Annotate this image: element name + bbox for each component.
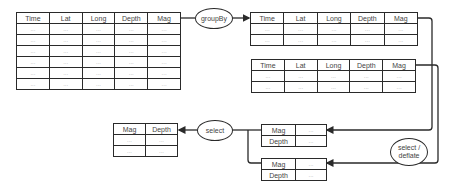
source-table: Time Lat Long Depth Mag ... ... ... ... … bbox=[16, 12, 181, 90]
row-label-mag: Mag bbox=[262, 159, 296, 170]
cell: ... bbox=[17, 68, 50, 79]
header-mag: Mag bbox=[384, 13, 417, 24]
table-header-row: Time Lat Long Depth Mag bbox=[17, 13, 181, 24]
table-row: Mag ... bbox=[262, 159, 327, 170]
select-deflate-label-line1: select / bbox=[398, 144, 420, 152]
cell: ... bbox=[49, 79, 82, 90]
groupby-diagram: Time Lat Long Depth Mag ... ... ... ... … bbox=[0, 0, 456, 192]
header-time: Time bbox=[252, 60, 285, 71]
cell: ... bbox=[49, 35, 82, 46]
cell: ... bbox=[383, 71, 416, 82]
cell: ... bbox=[17, 57, 50, 68]
table-header-row: Time Lat Long Depth Mag bbox=[251, 13, 418, 24]
table-row: ... ... ... ... ... bbox=[17, 46, 181, 57]
cell: ... bbox=[17, 24, 50, 35]
cell: ... bbox=[146, 135, 178, 146]
result-table: Mag Depth ... ... ... ... bbox=[113, 123, 178, 157]
row-label-depth: Depth bbox=[262, 170, 296, 181]
row-label-depth: Depth bbox=[262, 136, 296, 147]
group-table-2: Time Lat Long Depth Mag ... ... ... ... … bbox=[251, 59, 416, 93]
cell: ... bbox=[82, 79, 115, 90]
header-lat: Lat bbox=[49, 13, 82, 24]
header-depth: Depth bbox=[351, 13, 384, 24]
deflated-table-2: Mag ... Depth ... bbox=[261, 158, 327, 181]
cell: ... bbox=[284, 71, 317, 82]
header-time: Time bbox=[251, 13, 284, 24]
cell: ... bbox=[49, 57, 82, 68]
cell: ... bbox=[49, 68, 82, 79]
table-row: Mag ... bbox=[262, 125, 327, 136]
cell: ... bbox=[252, 71, 285, 82]
cell: ... bbox=[384, 24, 417, 35]
cell: ... bbox=[284, 35, 317, 46]
table-row: ... ... ... ... ... bbox=[252, 71, 416, 82]
groupby-node: groupBy bbox=[195, 8, 233, 29]
table-row: ... ... ... ... ... bbox=[251, 35, 418, 46]
select-node: select bbox=[197, 120, 233, 141]
table-row: ... ... bbox=[114, 135, 178, 146]
cell: ... bbox=[317, 71, 350, 82]
cell: ... bbox=[115, 57, 148, 68]
table-row: ... ... ... ... ... bbox=[17, 35, 181, 46]
cell: ... bbox=[251, 35, 284, 46]
header-long: Long bbox=[317, 13, 350, 24]
table-row: ... ... bbox=[114, 146, 178, 157]
cell: ... bbox=[317, 35, 350, 46]
cell: ... bbox=[17, 79, 50, 90]
cell: ... bbox=[383, 82, 416, 93]
header-time: Time bbox=[17, 13, 50, 24]
cell: ... bbox=[284, 24, 317, 35]
cell: ... bbox=[114, 135, 146, 146]
table-row: Depth ... bbox=[262, 170, 327, 181]
table-row: ... ... ... ... ... bbox=[17, 68, 181, 79]
cell: ... bbox=[284, 82, 317, 93]
cell: ... bbox=[49, 46, 82, 57]
cell: ... bbox=[350, 71, 383, 82]
header-mag: Mag bbox=[114, 124, 146, 135]
deflated-table-1: Mag ... Depth ... bbox=[261, 124, 327, 147]
table-header-row: Mag Depth bbox=[114, 124, 178, 135]
cell: ... bbox=[317, 82, 350, 93]
header-mag: Mag bbox=[148, 13, 181, 24]
group-table-1: Time Lat Long Depth Mag ... ... ... ... … bbox=[250, 12, 418, 46]
table-header-row: Time Lat Long Depth Mag bbox=[252, 60, 416, 71]
cell: ... bbox=[17, 35, 50, 46]
select-deflate-label-line2: deflate bbox=[398, 152, 419, 160]
cell: ... bbox=[317, 24, 350, 35]
groupby-label: groupBy bbox=[201, 15, 227, 23]
header-mag: Mag bbox=[383, 60, 416, 71]
cell: ... bbox=[82, 24, 115, 35]
select-deflate-node: select / deflate bbox=[390, 138, 428, 166]
header-lat: Lat bbox=[284, 60, 317, 71]
cell: ... bbox=[351, 24, 384, 35]
cell: ... bbox=[351, 35, 384, 46]
table-row: ... ... ... ... ... bbox=[17, 24, 181, 35]
select-label: select bbox=[206, 127, 224, 135]
cell: ... bbox=[115, 68, 148, 79]
cell: ... bbox=[252, 82, 285, 93]
header-depth: Depth bbox=[350, 60, 383, 71]
cell: ... bbox=[296, 136, 327, 147]
header-depth: Depth bbox=[146, 124, 178, 135]
table-row: ... ... ... ... ... bbox=[251, 24, 418, 35]
table-row: ... ... ... ... ... bbox=[252, 82, 416, 93]
cell: ... bbox=[148, 57, 181, 68]
cell: ... bbox=[384, 35, 417, 46]
cell: ... bbox=[82, 68, 115, 79]
header-depth: Depth bbox=[115, 13, 148, 24]
cell: ... bbox=[82, 46, 115, 57]
table-row: ... ... ... ... ... bbox=[17, 79, 181, 90]
cell: ... bbox=[115, 35, 148, 46]
cell: ... bbox=[17, 46, 50, 57]
cell: ... bbox=[296, 159, 327, 170]
cell: ... bbox=[115, 46, 148, 57]
cell: ... bbox=[115, 79, 148, 90]
row-label-mag: Mag bbox=[262, 125, 296, 136]
cell: ... bbox=[115, 24, 148, 35]
cell: ... bbox=[114, 146, 146, 157]
cell: ... bbox=[82, 35, 115, 46]
header-long: Long bbox=[317, 60, 350, 71]
header-long: Long bbox=[82, 13, 115, 24]
cell: ... bbox=[49, 24, 82, 35]
cell: ... bbox=[350, 82, 383, 93]
